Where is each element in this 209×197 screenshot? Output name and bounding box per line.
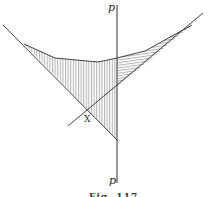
horizontal-hatched-region [117,25,192,87]
crossing-x-label: X [84,114,91,124]
bottom-p-label: p [109,174,116,187]
figure-caption: Fig. 117 [89,192,138,197]
diagram-canvas: p p X Fig. 117 [0,0,209,197]
top-p-label: p [108,1,115,14]
diagram-figure: p p X Fig. 117 [0,0,209,197]
